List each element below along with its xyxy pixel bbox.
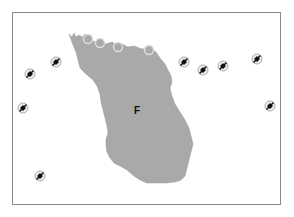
plane-icon[interactable] <box>265 101 275 111</box>
plane-icon[interactable] <box>179 57 189 67</box>
plane-icon[interactable] <box>252 54 262 64</box>
plane-icon[interactable] <box>18 103 28 113</box>
island-region-f[interactable] <box>69 33 193 183</box>
map-canvas <box>0 0 294 217</box>
plane-icon[interactable] <box>35 171 45 181</box>
plane-icon[interactable] <box>51 57 61 67</box>
plane-icon[interactable] <box>25 69 35 79</box>
region-label: F <box>134 105 140 116</box>
plane-icon[interactable] <box>198 65 208 75</box>
plane-icon[interactable] <box>218 61 228 71</box>
